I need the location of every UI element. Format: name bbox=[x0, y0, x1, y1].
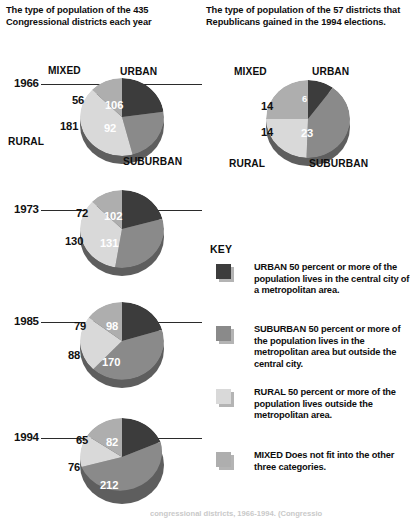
key-item-mixed-text: MIXED Does not fit into the other three … bbox=[254, 450, 412, 473]
pie-chart-1966: 1966 MIXED URBAN RURAL SUBURBAN 56 106 1… bbox=[0, 60, 206, 170]
key-item-suburban-text: SUBURBAN 50 percent or more of the popul… bbox=[254, 324, 412, 370]
pie-slices-gains bbox=[266, 80, 350, 158]
value-urban-1985: 98 bbox=[106, 320, 118, 332]
label-mixed-1966: MIXED bbox=[48, 65, 81, 76]
label-rural-gains: RURAL bbox=[229, 158, 265, 169]
pie-disc bbox=[80, 418, 164, 496]
mixed-swatch-icon bbox=[216, 452, 231, 467]
pie-chart-1973: 1973 72 102 130 131 bbox=[0, 188, 206, 288]
value-mixed-1985: 79 bbox=[74, 320, 86, 332]
pie-slices-1966 bbox=[80, 78, 164, 156]
value-urban-1973: 102 bbox=[104, 210, 122, 222]
value-rural-1985: 88 bbox=[68, 349, 80, 361]
pie-disc bbox=[80, 78, 164, 156]
pie-slices-1985 bbox=[80, 302, 164, 380]
source-footnote: congressional districts, 1966-1994. (Con… bbox=[150, 509, 412, 518]
year-label-1985: 1985 bbox=[12, 315, 41, 327]
value-suburban-gains: 23 bbox=[301, 127, 313, 139]
value-mixed-1994: 65 bbox=[76, 434, 88, 446]
value-suburban-1985: 170 bbox=[102, 356, 120, 368]
left-panel-title: The type of population of the 435 Congre… bbox=[6, 4, 206, 28]
pie-slices-1973 bbox=[80, 190, 164, 268]
year-label-1994: 1994 bbox=[12, 431, 41, 443]
rural-swatch-icon bbox=[216, 389, 231, 404]
pie-disc bbox=[80, 302, 164, 380]
suburban-swatch-icon bbox=[216, 326, 231, 341]
label-urban-1966: URBAN bbox=[120, 66, 157, 77]
year-label-1966: 1966 bbox=[12, 77, 41, 89]
year-label-1973: 1973 bbox=[12, 203, 41, 215]
key-item-urban-text: URBAN 50 percent or more of the populati… bbox=[254, 262, 412, 297]
pie-chart-1994: 1994 65 82 76 212 bbox=[0, 410, 206, 515]
label-urban-gains: URBAN bbox=[312, 66, 349, 77]
label-suburban-gains: SUBURBAN bbox=[309, 158, 368, 169]
value-rural-1994: 76 bbox=[68, 461, 80, 473]
value-rural-1973: 130 bbox=[65, 235, 83, 247]
label-rural-1966: RURAL bbox=[8, 136, 44, 147]
pie-chart-republican-gains: MIXED URBAN RURAL SUBURBAN 14 6 14 23 bbox=[206, 58, 412, 173]
label-suburban-1966: SUBURBAN bbox=[123, 156, 182, 167]
right-panel-title: The type of population of the 57 distric… bbox=[206, 4, 406, 28]
pie-chart-1985: 1985 79 98 88 170 bbox=[0, 298, 206, 398]
value-urban-1994: 82 bbox=[106, 436, 118, 448]
value-suburban-1966: 92 bbox=[104, 122, 116, 134]
pie-disc bbox=[266, 80, 350, 158]
pie-slices-1994 bbox=[80, 418, 164, 496]
value-mixed-1966: 56 bbox=[72, 94, 84, 106]
value-urban-1966: 106 bbox=[105, 99, 123, 111]
urban-swatch-icon bbox=[216, 264, 231, 279]
label-mixed-gains: MIXED bbox=[234, 66, 267, 77]
value-mixed-gains: 14 bbox=[261, 100, 273, 112]
key-heading: KEY bbox=[210, 243, 232, 255]
value-rural-1966: 181 bbox=[60, 120, 78, 132]
value-mixed-1973: 72 bbox=[76, 207, 88, 219]
value-rural-gains: 14 bbox=[261, 126, 273, 138]
value-suburban-1973: 131 bbox=[100, 237, 118, 249]
value-suburban-1994: 212 bbox=[100, 479, 118, 491]
value-urban-gains: 6 bbox=[302, 93, 307, 104]
pie-disc bbox=[80, 190, 164, 268]
key-item-rural-text: RURAL 50 percent or more of the populati… bbox=[254, 387, 412, 422]
